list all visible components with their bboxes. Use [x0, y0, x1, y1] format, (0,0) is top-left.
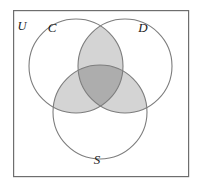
venn-diagram-figure: U C D S	[0, 0, 200, 186]
universal-set-label: U	[17, 19, 27, 33]
set-label-c: C	[48, 20, 57, 35]
venn-diagram-canvas: U C D S	[0, 0, 200, 186]
set-label-d: D	[137, 20, 148, 35]
set-label-s: S	[94, 152, 101, 167]
